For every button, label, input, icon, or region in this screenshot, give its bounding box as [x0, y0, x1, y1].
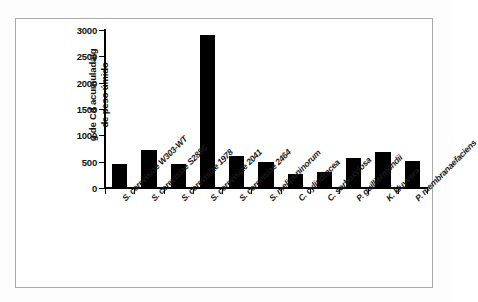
bar: [405, 161, 420, 188]
y-tick-label: 2000: [77, 77, 97, 88]
y-tick: [99, 162, 105, 163]
y-tick-label: 2500: [77, 51, 97, 62]
y-tick: [99, 109, 105, 110]
y-tick: [99, 56, 105, 57]
x-tick: [339, 189, 340, 194]
x-tick: [222, 189, 223, 194]
x-tick: [281, 189, 282, 194]
bar: [171, 164, 186, 188]
y-tick-label: 500: [82, 156, 97, 167]
y-tick-label: 0: [92, 183, 97, 194]
bar: [229, 156, 244, 188]
x-tick: [310, 189, 311, 194]
bar: [258, 162, 273, 188]
bar: [317, 172, 332, 188]
y-tick-label: 1000: [77, 130, 97, 141]
bar: [346, 158, 361, 188]
bar: [375, 152, 390, 188]
y-tick: [99, 135, 105, 136]
x-tick: [193, 189, 194, 194]
bar: [288, 174, 303, 188]
y-tick: [99, 83, 105, 84]
x-tick: [427, 189, 428, 194]
x-tick: [368, 189, 369, 194]
y-tick: [99, 30, 105, 31]
x-tick: [164, 189, 165, 194]
bar: [112, 164, 127, 188]
bar: [200, 35, 215, 188]
x-tick: [251, 189, 252, 194]
y-tick-label: 1500: [77, 104, 97, 115]
plot-area: 050010001500200025003000: [105, 30, 427, 188]
x-tick: [398, 189, 399, 194]
x-tick: [105, 189, 106, 194]
y-tick-label: 3000: [77, 25, 97, 36]
x-tick: [134, 189, 135, 194]
bar: [141, 150, 156, 188]
